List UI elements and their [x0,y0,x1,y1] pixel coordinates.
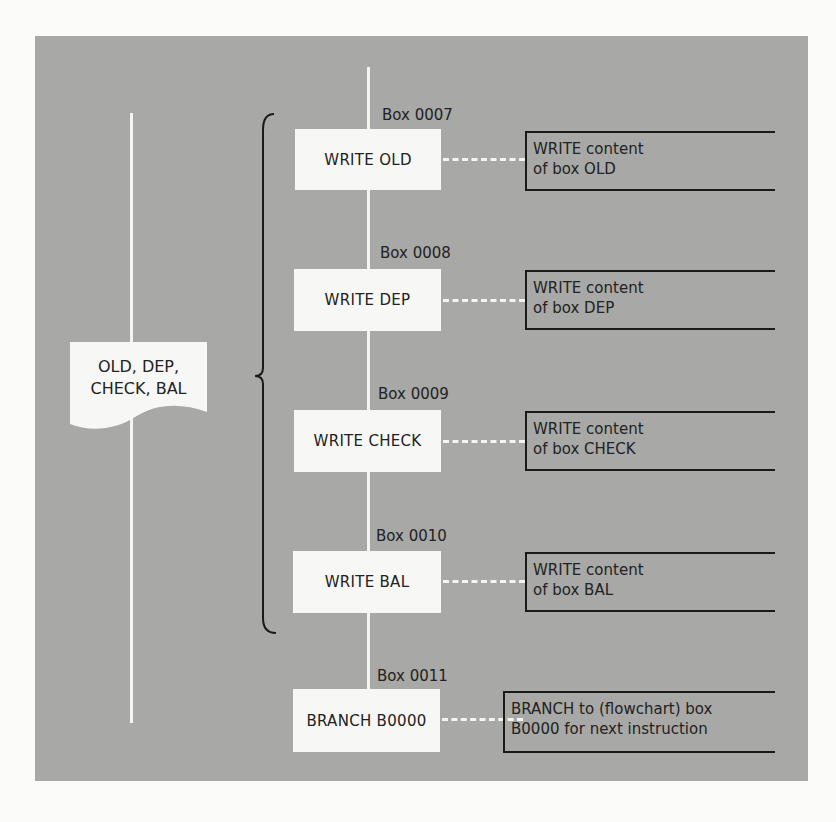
io-line-2: CHECK, BAL [70,378,207,400]
box-label-0010: Box 0010 [376,527,447,545]
box-label-0008: Box 0008 [380,244,451,262]
annotation-note: WRITE content of box BAL [525,552,775,612]
curly-brace [240,112,280,637]
instruction-box-write-check: WRITE CHECK [294,410,441,472]
annotation-note: BRANCH to (flowchart) box B0000 for next… [503,691,775,753]
instruction-text: WRITE DEP [325,291,411,309]
instruction-text: WRITE BAL [325,573,410,591]
document-symbol-label: OLD, DEP, CHECK, BAL [70,356,207,400]
instruction-box-branch: BRANCH B0000 [293,689,440,752]
io-line-1: OLD, DEP, [70,356,207,378]
box-label-0009: Box 0009 [378,385,449,403]
instruction-text: WRITE CHECK [314,432,422,450]
annotation-note: WRITE content of box OLD [525,131,775,191]
box-label-0011: Box 0011 [377,667,448,685]
dashed-connector [443,158,525,161]
instruction-box-write-old: WRITE OLD [295,129,441,190]
dashed-connector [443,299,525,302]
dashed-connector [443,580,525,583]
annotation-note: WRITE content of box DEP [525,270,775,330]
instruction-box-write-bal: WRITE BAL [293,551,441,613]
annotation-note: WRITE content of box CHECK [525,411,775,471]
instruction-text: BRANCH B0000 [306,712,426,730]
box-label-0007: Box 0007 [382,106,453,124]
instruction-box-write-dep: WRITE DEP [294,269,441,331]
instruction-text: WRITE OLD [324,151,412,169]
dashed-connector [443,440,525,443]
